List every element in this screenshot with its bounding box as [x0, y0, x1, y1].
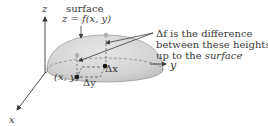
surface-equation: z = f(x, y) [62, 14, 111, 24]
surface-point-origin [75, 53, 79, 57]
annotation-line-2: between these heights [156, 40, 268, 50]
annotation-line-3: up to the surface [156, 51, 242, 61]
delta-x-label: Δx [105, 64, 118, 74]
diagram-canvas [0, 0, 268, 126]
annotation-line-3-prefix: up to the [156, 50, 205, 61]
y-axis-label: y [170, 60, 176, 71]
surface-point-shifted [104, 33, 108, 37]
z-axis-label: z [42, 4, 47, 14]
partial-derivative-diagram: z x y surface z = f(x, y) Δf is the diff… [0, 0, 268, 126]
point-label: (x, y) [54, 72, 79, 82]
delta-y-label: Δy [83, 78, 96, 88]
annotation-line-1: Δf is the difference [156, 29, 252, 39]
x-axis [17, 73, 45, 110]
x-axis-label: x [9, 115, 15, 125]
annotation-emphasis: surface [205, 50, 243, 61]
